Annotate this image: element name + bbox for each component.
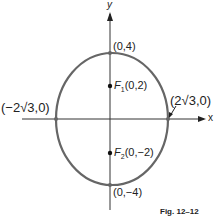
x-axis-arrow-icon: [198, 116, 206, 122]
bottom-vertex-label: (0,−4): [113, 187, 142, 198]
top-vertex-label: (0,4): [113, 41, 136, 52]
figure-caption: Fig. 12–12: [160, 207, 199, 216]
right-covertex-label: (2√3,0): [170, 94, 211, 107]
top-vertex-point: [108, 51, 112, 55]
bottom-vertex-point: [108, 183, 112, 187]
x-axis-label: x: [208, 113, 213, 123]
focus1-point: [108, 84, 112, 88]
y-axis-arrow-icon: [107, 12, 113, 21]
y-axis-label: y: [107, 0, 112, 10]
focus2-label: F2(0,−2): [114, 147, 154, 160]
left-covertex-point: [54, 117, 58, 121]
left-covertex-label: (−2√3,0): [1, 101, 50, 114]
focus1-label: F1(0,2): [114, 80, 147, 93]
focus2-point: [108, 151, 112, 155]
